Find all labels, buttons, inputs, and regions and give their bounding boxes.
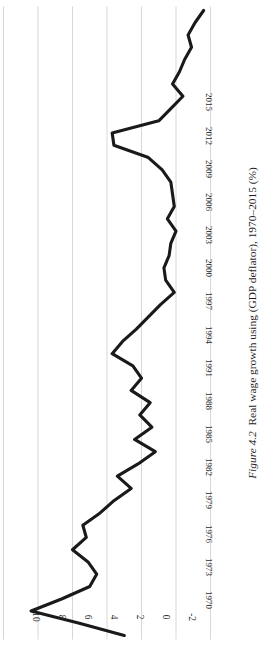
x-axis-tick-1988: 1988 [204, 388, 214, 414]
x-axis-tick-1997: 1997 [204, 288, 214, 314]
x-axis-tick-1976: 1976 [204, 521, 214, 547]
x-axis-tick-2000: 2000 [204, 255, 214, 281]
y-axis-tick-0: 0 [161, 607, 171, 627]
y-axis-tick-10: 10 [31, 607, 41, 627]
figure-container: 1086420-2 197019731976197919821985198819… [0, 0, 266, 645]
x-axis-tick-1973: 1973 [204, 554, 214, 580]
y-axis-tick-2: 2 [135, 607, 145, 627]
figure-caption-text: Real wage growth using (GDP deflator), 1… [246, 167, 258, 425]
x-axis-tick-2006: 2006 [204, 189, 214, 215]
figure-caption-inner: Figure 4.2 Real wage growth using (GDP d… [246, 167, 258, 479]
figure-caption: Figure 4.2 Real wage growth using (GDP d… [240, 0, 264, 645]
y-axis-tick-8: 8 [57, 607, 67, 627]
x-axis-tick-1979: 1979 [204, 487, 214, 513]
figure-caption-label: Figure 4.2 [246, 431, 258, 479]
x-axis-tick-1970: 1970 [204, 587, 214, 613]
x-axis-tick-2009: 2009 [204, 156, 214, 182]
data-series-line [31, 10, 204, 635]
x-axis-tick-1982: 1982 [204, 454, 214, 480]
x-axis-tick-2012: 2012 [204, 123, 214, 149]
line-chart [0, 0, 215, 645]
plot-area [0, 0, 215, 645]
x-axis-tick-2015: 2015 [204, 89, 214, 115]
x-axis-tick-1994: 1994 [204, 322, 214, 348]
y-axis-tick-4: 4 [109, 607, 119, 627]
x-axis-tick-1985: 1985 [204, 421, 214, 447]
y-axis-tick-neg2: -2 [187, 607, 197, 627]
x-axis-tick-1991: 1991 [204, 355, 214, 381]
y-axis-tick-6: 6 [83, 607, 93, 627]
chart-rotator [0, 0, 215, 645]
x-axis-tick-2003: 2003 [204, 222, 214, 248]
